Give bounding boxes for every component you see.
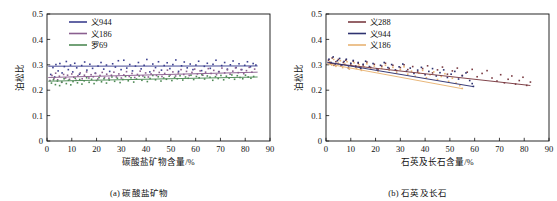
x-tick-label: 60 [470,144,479,154]
legend: 义944义186罗69 [69,18,112,50]
x-tick-label: 50 [167,144,176,154]
scatter-plot-quartz-feldspar: 00.10.20.30.40.50102030405060708090石英及长石… [279,0,557,201]
chart-panel-b: 00.10.20.30.40.50102030405060708090石英及长石… [279,0,557,201]
y-tick-label: 0.1 [311,111,322,121]
chart-panel-a: 00.10.20.30.40.50102030405060708090碳酸盐矿物… [0,0,279,201]
y-tick-label: 0.2 [32,85,43,95]
y-tick-label: 0.5 [32,9,43,19]
y-tick-label: 0.5 [311,9,322,19]
panel-caption-a: (a) 碳酸盐矿物 [0,186,279,198]
x-tick-label: 90 [266,144,275,154]
x-tick-label: 20 [371,144,380,154]
y-tick-label: 0.3 [311,60,322,70]
legend-label-1: 义944 [370,30,391,39]
x-tick-label: 90 [544,144,553,154]
legend-label-0: 义944 [91,18,112,27]
y-tick-label: 0.3 [32,60,43,70]
y-tick-label: 0.1 [32,111,43,121]
x-tick-label: 70 [216,144,225,154]
x-tick-label: 80 [519,144,528,154]
x-tick-label: 70 [495,144,504,154]
legend-label-2: 义186 [370,41,391,50]
x-tick-label: 50 [445,144,454,154]
y-tick-label: 0.4 [32,35,43,45]
y-axis-title: 泊松比 [293,64,304,91]
legend-label-0: 义288 [370,18,391,27]
y-tick-label: 0 [317,136,321,146]
scatter-plot-carbonate: 00.10.20.30.40.50102030405060708090碳酸盐矿物… [0,0,279,201]
x-tick-label: 40 [142,144,151,154]
y-tick-label: 0.4 [311,35,322,45]
y-tick-label: 0.2 [311,85,322,95]
y-axis-title: 泊松比 [14,64,25,91]
x-tick-label: 0 [45,144,49,154]
y-tick-label: 0 [39,136,43,146]
x-tick-label: 0 [323,144,327,154]
data-group [48,59,257,87]
legend: 义288义944义186 [348,18,391,50]
x-axis-title: 碳酸盐矿物含量/% [122,156,195,167]
x-axis-title: 石英及长石含量/% [401,156,474,167]
legend-label-2: 罗69 [91,41,107,50]
legend-label-1: 义186 [91,30,112,39]
x-tick-label: 30 [117,144,126,154]
figure-container: 00.10.20.30.40.50102030405060708090碳酸盐矿物… [0,0,557,201]
panel-caption-b: (b) 石英及长石 [279,186,557,198]
x-tick-label: 60 [191,144,200,154]
x-tick-label: 30 [396,144,405,154]
x-tick-label: 20 [92,144,101,154]
axes-group: 00.10.20.30.40.50102030405060708090 [311,9,553,153]
data-group [327,56,531,89]
x-tick-label: 40 [420,144,429,154]
x-tick-label: 10 [346,144,355,154]
x-tick-label: 80 [241,144,250,154]
x-tick-label: 10 [67,144,76,154]
axes-group: 00.10.20.30.40.50102030405060708090 [32,9,274,153]
